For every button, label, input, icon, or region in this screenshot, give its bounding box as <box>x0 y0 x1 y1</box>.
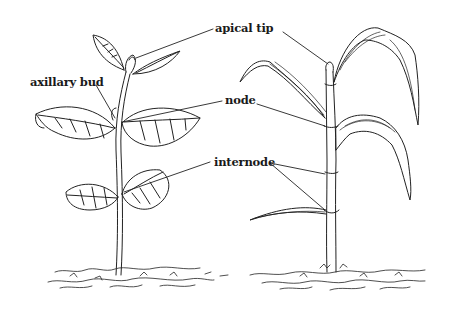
label-axillary-bud: axillary bud <box>30 77 104 89</box>
leader-internode-right-lower <box>270 163 325 210</box>
plant-diagram: apical tip axillary bud node internode <box>0 0 456 310</box>
leader-internode-right-upper <box>270 163 325 174</box>
label-node: node <box>225 95 256 107</box>
leader-axillary-bud <box>96 85 115 118</box>
label-internode: internode <box>214 157 275 169</box>
leader-internode-left <box>124 162 210 192</box>
label-apical-tip: apical tip <box>215 23 273 35</box>
leader-node-right <box>257 104 325 126</box>
leader-apical-tip-right <box>283 32 328 64</box>
leader-node-left <box>122 101 222 122</box>
dicot-plant <box>35 35 228 288</box>
